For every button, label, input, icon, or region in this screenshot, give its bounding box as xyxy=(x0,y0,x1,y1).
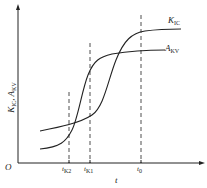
y-axis-label: KIC, AKV xyxy=(6,82,17,113)
kic-curve xyxy=(40,29,181,131)
chart-figure: KIC, AKV O t KIC AKV tK2 tK1 t0 xyxy=(0,0,207,188)
origin-label: O xyxy=(5,163,12,172)
tick-label-t0: t0 xyxy=(137,166,142,174)
tick-label-tk1: tK1 xyxy=(84,166,93,174)
tick-label-tk2: tK2 xyxy=(62,166,71,174)
kic-label: KIC xyxy=(168,16,180,26)
akv-label: AKV xyxy=(165,44,179,54)
x-axis-label: t xyxy=(115,176,118,185)
y-axis-arrow-icon xyxy=(16,4,20,10)
chart-plot xyxy=(0,0,207,188)
x-axis-arrow-icon xyxy=(199,161,205,165)
